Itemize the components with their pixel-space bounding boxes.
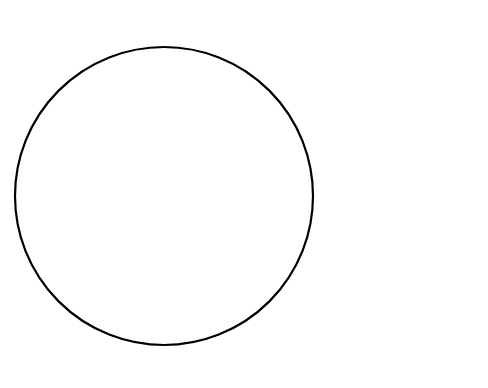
pie-chart-figure (0, 0, 488, 388)
pie-chart-canvas (0, 0, 488, 388)
pie-outline-circle (15, 47, 313, 345)
